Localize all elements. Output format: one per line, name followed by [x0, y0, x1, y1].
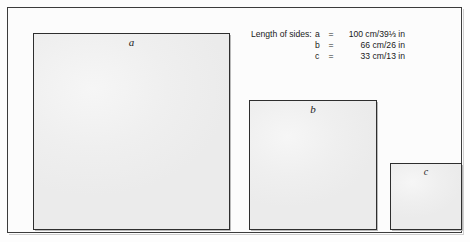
legend-intro-label: Length of sides: [251, 29, 315, 40]
legend-var-c: c [315, 51, 325, 62]
square-a: a [33, 33, 230, 230]
square-a-label: a [34, 36, 229, 48]
legend-value-a: 100 cm/39⅓ in [337, 29, 405, 40]
square-c-label: c [391, 166, 461, 178]
legend-block: Length of sides: a = 100 cm/39⅓ in b = 6… [251, 29, 405, 62]
legend-equals-c: = [325, 51, 337, 62]
legend-row-c: c = 33 cm/13 in [251, 51, 405, 62]
square-b: b [249, 100, 377, 230]
legend-row-b: b = 66 cm/26 in [251, 40, 405, 51]
square-c: c [390, 163, 462, 230]
legend-value-b: 66 cm/26 in [337, 40, 405, 51]
square-b-label: b [250, 103, 376, 115]
legend-var-a: a [315, 29, 325, 40]
figure-canvas: a b c Length of sides: a = 100 cm/39⅓ in… [0, 0, 470, 242]
legend-value-c: 33 cm/13 in [337, 51, 405, 62]
diagram-frame: a b c Length of sides: a = 100 cm/39⅓ in… [7, 7, 462, 233]
legend-row-a: Length of sides: a = 100 cm/39⅓ in [251, 29, 405, 40]
legend-equals-b: = [325, 40, 337, 51]
legend-equals-a: = [325, 29, 337, 40]
legend-var-b: b [315, 40, 325, 51]
